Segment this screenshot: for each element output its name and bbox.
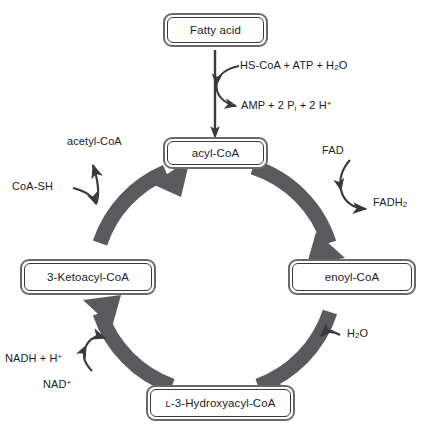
node-fatty-acid[interactable]: Fatty acid <box>163 13 268 47</box>
fad-in-arrow <box>340 160 350 190</box>
nadh-out-arrow <box>86 337 105 346</box>
cycle-arc-ketoacyl-to-acyl <box>100 159 190 243</box>
coash-label: CoA-SH <box>12 180 53 192</box>
node-acyl-coa[interactable]: acyl-CoA <box>163 137 268 169</box>
node-acyl-coa-inner: acyl-CoA <box>167 141 264 165</box>
acetyl-coa-label: acetyl-CoA <box>67 135 122 147</box>
node-ketoacyl-coa[interactable]: 3-Ketoacyl-CoA <box>20 259 156 295</box>
nad-in-arrow <box>84 346 92 371</box>
node-fatty-acid-label: Fatty acid <box>190 24 241 36</box>
activation-substrates-label: HS-CoA + ATP + H2O <box>240 59 347 72</box>
cycle-arc-acyl-to-enoyl <box>253 167 345 264</box>
node-enoyl-coa[interactable]: enoyl-CoA <box>288 259 416 295</box>
activation-products-label: AMP + 2 Pi + 2 H+ <box>241 99 332 113</box>
beta-oxidation-diagram: Fatty acid acyl-CoA enoyl-CoA L-3-Hydrox… <box>0 0 429 441</box>
diagram-arrows-layer <box>0 0 429 441</box>
fadh2-label: FADH2 <box>373 196 407 209</box>
nadh-label: NADH + H+ <box>5 352 62 364</box>
fad-label: FAD <box>322 144 344 156</box>
cycle-arc-hydroxyacyl-to-ketoacyl <box>83 295 172 386</box>
node-fatty-acid-inner: Fatty acid <box>167 17 264 43</box>
fadh2-out-arrow <box>341 190 366 209</box>
activation-product-arrow <box>216 85 236 106</box>
node-acyl-coa-label: acyl-CoA <box>192 147 239 159</box>
node-hydroxyacyl-coa-inner: L-3-Hydroxyacyl-CoA <box>150 389 291 417</box>
node-hydroxyacyl-coa-label-rest: -3-Hydroxyacyl-CoA <box>171 397 276 409</box>
activation-substrate-arrow <box>217 66 240 85</box>
node-hydroxyacyl-coa-label: L-3-Hydroxyacyl-CoA <box>165 397 275 409</box>
node-ketoacyl-coa-label: 3-Ketoacyl-CoA <box>47 271 129 283</box>
node-ketoacyl-coa-inner: 3-Ketoacyl-CoA <box>24 263 152 291</box>
water-label: H2O <box>347 327 368 340</box>
node-enoyl-coa-inner: enoyl-CoA <box>292 263 412 291</box>
nad-label: NAD+ <box>43 378 71 390</box>
node-hydroxyacyl-coa[interactable]: L-3-Hydroxyacyl-CoA <box>146 385 295 421</box>
coash-in-arrow <box>73 188 96 204</box>
node-enoyl-coa-label: enoyl-CoA <box>325 271 380 283</box>
